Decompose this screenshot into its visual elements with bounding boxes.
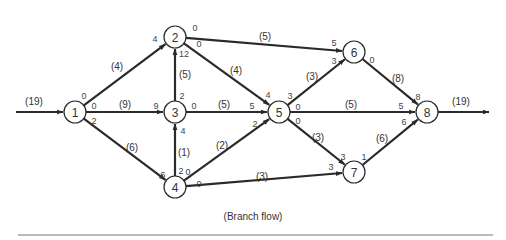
edge-4-3-start: 2 <box>178 166 183 176</box>
source-flow-label: (19) <box>25 96 43 107</box>
edge-2-6-start: 0 <box>192 23 197 33</box>
edge-3-2-flow: (5) <box>179 69 191 80</box>
edge-6-8 <box>362 59 417 104</box>
edge-7-8 <box>362 120 417 165</box>
edge-5-8-flow: (5) <box>345 99 357 110</box>
edge-1-4-flow: (6) <box>126 142 138 153</box>
edge-5-6-flow: (3) <box>306 71 318 82</box>
edge-3-2-end: 12 <box>179 49 189 59</box>
edge-4-5-end: 2 <box>252 119 257 129</box>
edge-1-2 <box>84 44 166 105</box>
node-label: 1 <box>72 106 79 120</box>
edge-2-5-end: 4 <box>265 90 270 100</box>
edge-2-6-end: 5 <box>331 38 336 48</box>
edge-7-8-start: 1 <box>361 152 366 162</box>
edge-1-3-flow: (9) <box>119 99 131 110</box>
node-4: 4 <box>164 176 186 198</box>
edge-4-3-flow: (1) <box>178 147 190 158</box>
edge-4-5-start: 0 <box>185 167 190 177</box>
edge-6-8-flow: (8) <box>392 73 404 84</box>
node-label: 4 <box>172 181 179 195</box>
edge-6-8-start: 0 <box>369 55 374 65</box>
edge-1-4 <box>84 119 166 180</box>
edge-4-7-start: 0 <box>196 179 201 189</box>
edge-5-7-end: 3 <box>340 152 345 162</box>
edge-5-6-start: 3 <box>287 91 292 101</box>
edge-4-7-end: 3 <box>328 162 333 172</box>
edge-2-5 <box>184 43 269 105</box>
node-label: 7 <box>351 166 358 180</box>
node-1: 1 <box>64 101 86 123</box>
node-3: 3 <box>164 101 186 123</box>
edge-7-8-flow: (6) <box>376 133 388 144</box>
diagram-caption: (Branch flow) <box>224 211 283 222</box>
branch-flow-network: (19) (19) (4) (9) (6) (5) (1) (5) (4) (5… <box>0 0 506 240</box>
edge-3-5-start: 0 <box>191 101 196 111</box>
edge-4-5-flow: (2) <box>216 140 228 151</box>
node-8: 8 <box>416 101 438 123</box>
edge-5-6 <box>288 59 345 105</box>
edge-4-7-flow: (3) <box>256 171 268 182</box>
edge-2-5-start: 0 <box>196 39 201 49</box>
edge-5-7-flow: (3) <box>312 132 324 143</box>
edge-5-6-end: 3 <box>331 56 336 66</box>
node-label: 6 <box>351 46 358 60</box>
sink-flow-label: (19) <box>452 96 470 107</box>
edge-1-2-flow: (4) <box>111 61 123 72</box>
node-label: 5 <box>276 106 283 120</box>
edge-6-8-end: 8 <box>415 92 420 102</box>
edge-1-4-start: 2 <box>91 116 96 126</box>
edge-1-2-end: 4 <box>152 34 157 44</box>
node-5: 5 <box>268 101 290 123</box>
edge-5-8-start: 0 <box>295 102 300 112</box>
node-7: 7 <box>343 161 365 183</box>
node-2: 2 <box>164 26 186 48</box>
node-label: 2 <box>172 31 179 45</box>
node-label: 3 <box>172 106 179 120</box>
edge-2-5-flow: (4) <box>230 65 242 76</box>
node-label: 8 <box>424 106 431 120</box>
edge-1-3-end: 9 <box>153 101 158 111</box>
edge-7-8-end: 6 <box>401 117 406 127</box>
edge-3-5-end: 5 <box>249 101 254 111</box>
edge-1-2-start: 0 <box>81 91 86 101</box>
edge-2-6-flow: (5) <box>259 31 271 42</box>
edge-1-4-end: 6 <box>160 170 165 180</box>
edge-3-2-start: 2 <box>179 91 184 101</box>
edge-3-5-flow: (5) <box>218 99 230 110</box>
node-6: 6 <box>343 41 365 63</box>
edge-5-8-end: 5 <box>398 101 403 111</box>
edge-5-7-start: 0 <box>295 116 300 126</box>
edge-4-3-end: 4 <box>180 126 185 136</box>
edges <box>84 38 418 186</box>
edge-1-3-start: 0 <box>91 101 96 111</box>
